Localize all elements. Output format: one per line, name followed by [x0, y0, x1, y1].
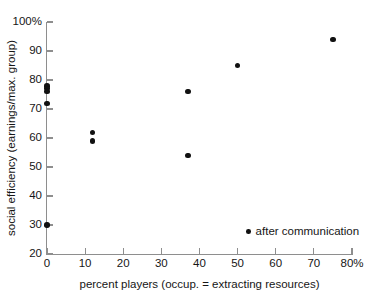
y-tick-label-text: 80: [29, 74, 42, 86]
x-tick-50: [237, 248, 238, 254]
y-tick-80: [47, 79, 53, 80]
y-tick-label-text: 20: [29, 248, 42, 260]
data-point: [330, 37, 335, 42]
data-point: [185, 89, 190, 94]
y-tick-100: [47, 21, 53, 22]
x-axis-title: percent players (occup. = extracting res…: [47, 277, 352, 291]
x-tick-0: [46, 248, 47, 254]
y-tick-60: [47, 137, 53, 138]
data-point: [90, 138, 95, 143]
y-tick-20: [47, 253, 53, 254]
chart-legend: after communication: [246, 226, 359, 238]
x-tick-label-text: 80%: [340, 258, 363, 270]
y-axis-title: social efficiency (earnings/max. group): [4, 22, 18, 254]
x-tick-20: [123, 248, 124, 254]
data-point: [44, 101, 49, 106]
y-tick-70: [47, 108, 53, 109]
x-tick-label-text: 40: [193, 258, 206, 270]
x-tick-10: [85, 248, 86, 254]
scatter-chart: 2030405060708090100% 01020304050607080% …: [0, 0, 370, 302]
x-tick-30: [161, 248, 162, 254]
y-tick-label-text: 50: [29, 161, 42, 173]
data-point: [90, 130, 95, 135]
y-tick-label-text: 60: [29, 132, 42, 144]
data-point: [44, 222, 49, 227]
y-tick-40: [47, 195, 53, 196]
y-tick-50: [47, 166, 53, 167]
legend-marker-icon: [246, 229, 251, 234]
y-tick-90: [47, 50, 53, 51]
x-tick-label-text: 10: [79, 258, 92, 270]
y-tick-label-text: 40: [29, 190, 42, 202]
data-point: [44, 83, 49, 88]
x-tick-40: [199, 248, 200, 254]
x-tick-label-text: 70: [307, 258, 320, 270]
y-tick-label-text: 70: [29, 103, 42, 115]
x-tick-70: [313, 248, 314, 254]
x-tick-label-text: 60: [269, 258, 282, 270]
x-tick-label-text: 30: [155, 258, 168, 270]
legend-label-after-communication: after communication: [256, 226, 360, 238]
x-tick-label-text: 20: [117, 258, 130, 270]
data-point: [185, 153, 190, 158]
y-tick-label-text: 90: [29, 45, 42, 57]
y-tick-label-text: 30: [29, 219, 42, 231]
x-tick-label-text: 50: [231, 258, 244, 270]
x-tick-label-text: 0: [44, 258, 50, 270]
data-point: [235, 63, 240, 68]
x-tick-80: [351, 248, 352, 254]
x-tick-60: [275, 248, 276, 254]
